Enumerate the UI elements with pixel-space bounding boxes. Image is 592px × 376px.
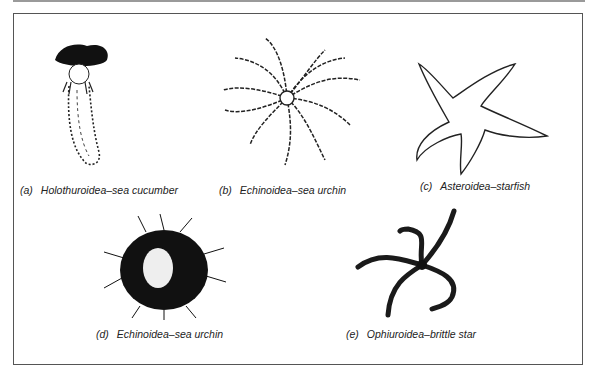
starfish-icon (405, 60, 555, 180)
caption-c: (c)Asteroidea–starfish (420, 180, 530, 192)
brittle-star-icon (350, 205, 490, 320)
caption-b: (b)Echinoidea–sea urchin (219, 184, 346, 196)
spiny-urchin-icon (100, 210, 230, 320)
caption-e: (e)Ophiuroidea–brittle star (346, 328, 476, 340)
caption-d: (d)Echinoidea–sea urchin (96, 328, 223, 340)
feathery-urchin-icon (215, 30, 365, 170)
caption-a: (a)Holothuroidea–sea cucumber (20, 184, 178, 196)
top-rule (13, 0, 585, 2)
sea-cucumber-icon (45, 40, 125, 170)
